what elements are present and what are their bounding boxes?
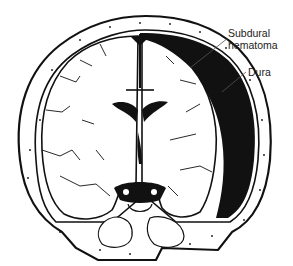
label-line: Subdural (228, 27, 278, 39)
label-dura: Dura (248, 66, 271, 78)
brainstem (114, 182, 166, 203)
label-line: hematoma (228, 39, 278, 51)
label-subdural-hematoma: Subdural hematoma (228, 27, 278, 51)
